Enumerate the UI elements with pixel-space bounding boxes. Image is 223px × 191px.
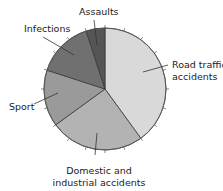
- rim-tick: [53, 51, 55, 53]
- label-assaults: Assaults: [79, 6, 119, 17]
- rim-tick: [141, 37, 143, 39]
- rim-tick: [67, 138, 69, 140]
- rim-tick: [124, 147, 125, 150]
- rim-tick: [85, 147, 86, 150]
- rim-tick: [141, 138, 143, 140]
- label-infections: Infections: [24, 23, 70, 34]
- rim-tick: [67, 37, 69, 39]
- rim-tick: [44, 108, 47, 109]
- rim-tick: [154, 51, 156, 53]
- rim-tick: [124, 28, 125, 31]
- rim-tick: [163, 108, 166, 109]
- label-domestic: Domestic andindustrial accidents: [53, 165, 146, 188]
- pie-slices: [44, 28, 166, 150]
- label-sport: Sport: [9, 101, 35, 112]
- rim-tick: [85, 28, 86, 31]
- label-road: Road trafficaccidents: [172, 59, 223, 82]
- rim-tick: [44, 69, 47, 70]
- rim-tick: [53, 125, 55, 127]
- pie-chart: Assaults Infections Road trafficaccident…: [0, 0, 223, 191]
- rim-tick: [154, 125, 156, 127]
- rim-tick: [163, 69, 166, 70]
